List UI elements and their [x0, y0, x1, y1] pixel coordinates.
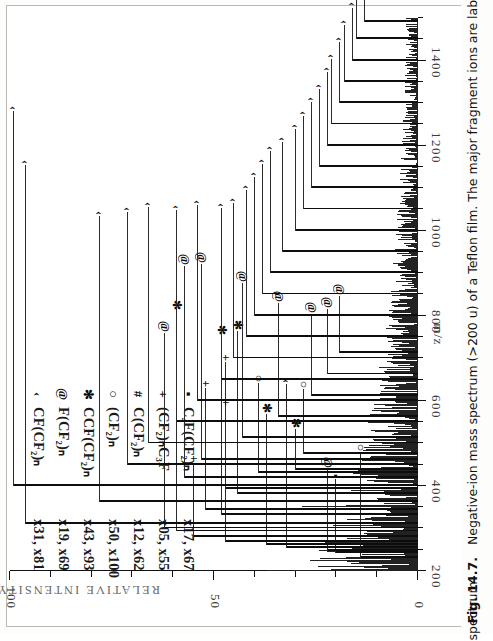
spectrum-noise-peak — [411, 87, 418, 88]
spectrum-trace: ○▪@‹✻++✻@‹✻+‹✻+‹@○✻‹@○‹@‹@‹@‹@‹@‹‹‹‹‹‹‹‹… — [10, 18, 418, 571]
spectrum-noise-peak — [408, 283, 418, 284]
spectrum-noise-peak — [377, 498, 418, 499]
spectrum-noise-peak — [417, 323, 418, 324]
spectrum-noise-peak — [410, 307, 418, 308]
spectrum-noise-peak — [416, 93, 418, 94]
spectrum-noise-peak — [384, 503, 418, 504]
spectrum-noise-peak — [412, 55, 418, 56]
spectrum-noise-peak — [415, 240, 418, 241]
spectrum-noise-peak — [409, 31, 418, 32]
spectrum-noise-peak — [403, 262, 418, 263]
x-axis-minor-tick — [418, 357, 423, 358]
spectrum-noise-peak — [417, 232, 418, 233]
peak-symbol-marker: ✻ — [171, 300, 183, 310]
spectrum-noise-peak — [405, 202, 418, 203]
spectrum-noise-peak — [401, 489, 418, 490]
spectrum-noise-peak — [410, 84, 418, 85]
peak-symbol-marker: ○ — [298, 381, 310, 388]
spectrum-noise-peak — [405, 417, 418, 418]
spectrum-noise-peak — [398, 365, 418, 366]
spectrum-noise-peak — [331, 569, 418, 570]
peak-leader-line — [184, 266, 185, 478]
peak-symbol-marker: @ — [306, 302, 318, 313]
peak-symbol-marker: @ — [322, 297, 334, 308]
peak-leader-line — [164, 333, 165, 529]
peak-symbol-marker: ‹ — [290, 124, 302, 128]
peak-symbol-marker: ‹ — [143, 202, 155, 206]
spectrum-noise-peak — [411, 425, 418, 426]
spectrum-noise-peak — [400, 300, 418, 301]
labeled-peak — [259, 471, 418, 473]
labeled-peak — [247, 335, 418, 337]
x-axis-minor-tick — [418, 464, 423, 465]
spectrum-noise-peak — [387, 337, 418, 338]
peak-symbol-marker: ‹ — [347, 3, 359, 7]
peak-symbol-marker: @ — [237, 271, 249, 282]
spectrum-noise-peak — [391, 346, 418, 347]
spectrum-noise-peak — [394, 444, 418, 445]
labeled-peak — [361, 556, 418, 558]
labeled-peak — [353, 59, 418, 61]
y-axis-minor-tick — [254, 571, 255, 577]
spectrum-noise-peak — [395, 389, 418, 390]
spectrum-noise-peak — [347, 538, 418, 539]
spectrum-noise-peak — [405, 65, 418, 66]
spectrum-noise-peak — [412, 106, 418, 107]
peak-leader-line — [205, 388, 206, 510]
spectrum-noise-peak — [408, 258, 418, 259]
x-axis-major-tick — [418, 485, 426, 486]
spectrum-noise-peak — [417, 194, 418, 195]
spectrum-noise-peak — [388, 482, 418, 483]
spectrum-noise-peak — [417, 110, 418, 111]
labeled-peak — [279, 415, 418, 417]
spectrum-noise-peak — [405, 223, 418, 224]
labeled-peak — [222, 513, 418, 515]
peak-leader-line — [13, 111, 14, 486]
spectrum-noise-peak — [417, 218, 418, 219]
peak-leader-line — [364, 0, 365, 22]
peak-leader-line — [242, 283, 243, 438]
peak-symbol-marker: ○ — [355, 443, 367, 450]
peak-symbol-marker: ‹ — [171, 205, 183, 209]
spectrum-noise-peak — [393, 263, 418, 264]
spectrum-noise-peak — [415, 146, 418, 147]
labeled-peak — [328, 549, 418, 551]
spectrum-noise-peak — [396, 281, 418, 282]
spectrum-noise-peak — [409, 465, 418, 466]
labeled-peak — [312, 186, 418, 188]
spectrum-noise-peak — [411, 222, 418, 223]
spectrum-noise-peak — [405, 117, 418, 118]
peak-leader-line — [327, 309, 328, 374]
spectrum-noise-peak — [395, 401, 418, 402]
spectrum-noise-peak — [399, 290, 418, 291]
x-axis-minor-tick — [418, 379, 423, 380]
peak-leader-line — [327, 72, 328, 145]
peak-leader-line — [282, 142, 283, 252]
spectrum-noise-peak — [405, 200, 418, 201]
peak-leader-line — [311, 314, 312, 396]
spectrum-noise-peak — [413, 70, 418, 71]
spectrum-noise-peak — [417, 61, 418, 62]
spectrum-noise-peak — [387, 361, 418, 362]
spectrum-noise-peak — [393, 340, 418, 341]
spectrum-noise-peak — [411, 89, 418, 90]
spectrum-noise-peak — [414, 366, 418, 367]
spectrum-noise-peak — [409, 170, 418, 171]
labeled-peak — [304, 208, 418, 210]
spectrum-noise-peak — [375, 431, 418, 432]
spectrum-noise-peak — [412, 502, 418, 503]
peak-symbol-marker: ‹ — [322, 67, 334, 71]
spectrum-noise-peak — [407, 68, 419, 69]
spectrum-noise-peak — [405, 150, 418, 151]
peak-symbol-marker: ‹ — [298, 111, 310, 115]
spectrum-noise-peak — [417, 43, 418, 44]
spectrum-noise-peak — [417, 41, 418, 42]
spectrum-noise-peak — [406, 148, 418, 149]
spectrum-noise-peak — [347, 561, 418, 562]
spectrum-noise-peak — [416, 134, 418, 135]
spectrum-noise-peak — [411, 151, 418, 152]
spectrum-noise-peak — [405, 91, 418, 92]
labeled-peak — [222, 378, 418, 380]
spectrum-noise-peak — [410, 181, 418, 182]
spectrum-noise-peak — [404, 193, 418, 194]
